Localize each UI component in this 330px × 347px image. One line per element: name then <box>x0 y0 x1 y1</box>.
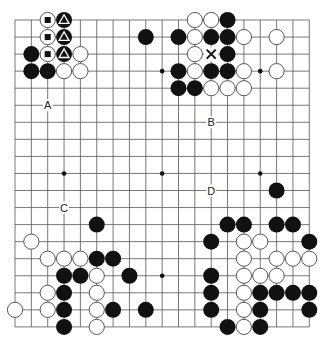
black-stone <box>121 268 137 284</box>
white-stone <box>269 29 284 44</box>
black-stone <box>23 63 39 79</box>
star-point <box>62 171 67 176</box>
black-stone <box>301 234 317 250</box>
black-stone <box>40 63 56 79</box>
white-stone <box>220 81 235 96</box>
black-stone <box>269 217 285 233</box>
white-stone <box>236 319 251 334</box>
white-stone <box>236 268 251 283</box>
white-stone <box>302 251 317 266</box>
cross-mark-icon <box>204 47 218 61</box>
square-mark-icon <box>45 17 51 23</box>
point-label-c: C <box>60 202 68 214</box>
black-stone <box>220 46 236 62</box>
white-stone <box>73 47 88 62</box>
white-stone <box>187 47 202 62</box>
square-mark-icon <box>45 34 51 40</box>
white-stone <box>7 302 22 317</box>
black-stone <box>203 234 219 250</box>
white-stone <box>236 302 251 317</box>
white-stone <box>236 251 251 266</box>
black-stone <box>203 29 219 45</box>
white-stone <box>236 285 251 300</box>
black-stone <box>23 46 39 62</box>
black-stone <box>89 217 105 233</box>
black-stone <box>56 29 72 45</box>
white-stone <box>236 29 251 44</box>
black-stone <box>56 285 72 301</box>
white-stone <box>40 12 55 27</box>
black-stone <box>203 268 219 284</box>
star-point <box>160 69 165 74</box>
black-stone <box>187 80 203 96</box>
white-stone <box>73 251 88 266</box>
white-stone <box>56 64 71 79</box>
white-stone <box>236 234 251 249</box>
black-stone <box>252 319 268 335</box>
black-stone <box>301 285 317 301</box>
star-point <box>160 171 165 176</box>
go-board: ABCD <box>0 0 330 347</box>
white-stone <box>187 29 202 44</box>
black-stone <box>105 251 121 267</box>
black-stone <box>171 63 187 79</box>
white-stone <box>187 64 202 79</box>
white-stone <box>269 268 284 283</box>
black-stone <box>220 319 236 335</box>
black-stone <box>301 302 317 318</box>
star-point <box>258 69 263 74</box>
point-label-b: B <box>208 116 215 128</box>
white-stone <box>56 251 71 266</box>
black-stone <box>138 29 154 45</box>
star-point <box>258 171 263 176</box>
black-stone <box>56 268 72 284</box>
black-stone <box>56 12 72 28</box>
white-stone <box>204 81 219 96</box>
white-stone <box>269 251 284 266</box>
black-stone <box>72 268 88 284</box>
black-stone <box>138 302 154 318</box>
black-stone <box>285 217 301 233</box>
white-stone <box>89 302 104 317</box>
white-stone <box>40 285 55 300</box>
star-point <box>160 273 165 278</box>
black-stone <box>252 302 268 318</box>
white-stone <box>40 251 55 266</box>
black-stone <box>56 46 72 62</box>
black-stone <box>220 29 236 45</box>
black-stone <box>269 183 285 199</box>
black-stone <box>171 80 187 96</box>
white-stone <box>89 268 104 283</box>
black-stone <box>105 302 121 318</box>
black-stone <box>220 63 236 79</box>
black-stone <box>252 285 268 301</box>
black-stone <box>220 217 236 233</box>
white-stone <box>253 234 268 249</box>
board-markers <box>204 47 218 61</box>
black-stone <box>89 251 105 267</box>
white-stone <box>89 285 104 300</box>
white-stone <box>285 251 300 266</box>
black-stone <box>236 217 252 233</box>
white-stone <box>40 29 55 44</box>
white-stone <box>89 319 104 334</box>
black-stone <box>203 63 219 79</box>
white-stone <box>40 302 55 317</box>
white-stone <box>236 81 251 96</box>
black-stone <box>269 285 285 301</box>
white-stone <box>204 12 219 27</box>
point-label-a: A <box>44 99 52 111</box>
white-stone <box>24 234 39 249</box>
point-label-d: D <box>207 185 215 197</box>
black-stone <box>56 319 72 335</box>
black-stone <box>56 302 72 318</box>
black-stone <box>203 285 219 301</box>
black-stone <box>285 285 301 301</box>
white-stone <box>269 64 284 79</box>
white-stone <box>253 268 268 283</box>
white-stone <box>40 47 55 62</box>
black-stone <box>220 12 236 28</box>
black-stone <box>171 29 187 45</box>
square-mark-icon <box>45 51 51 57</box>
white-stone <box>236 64 251 79</box>
